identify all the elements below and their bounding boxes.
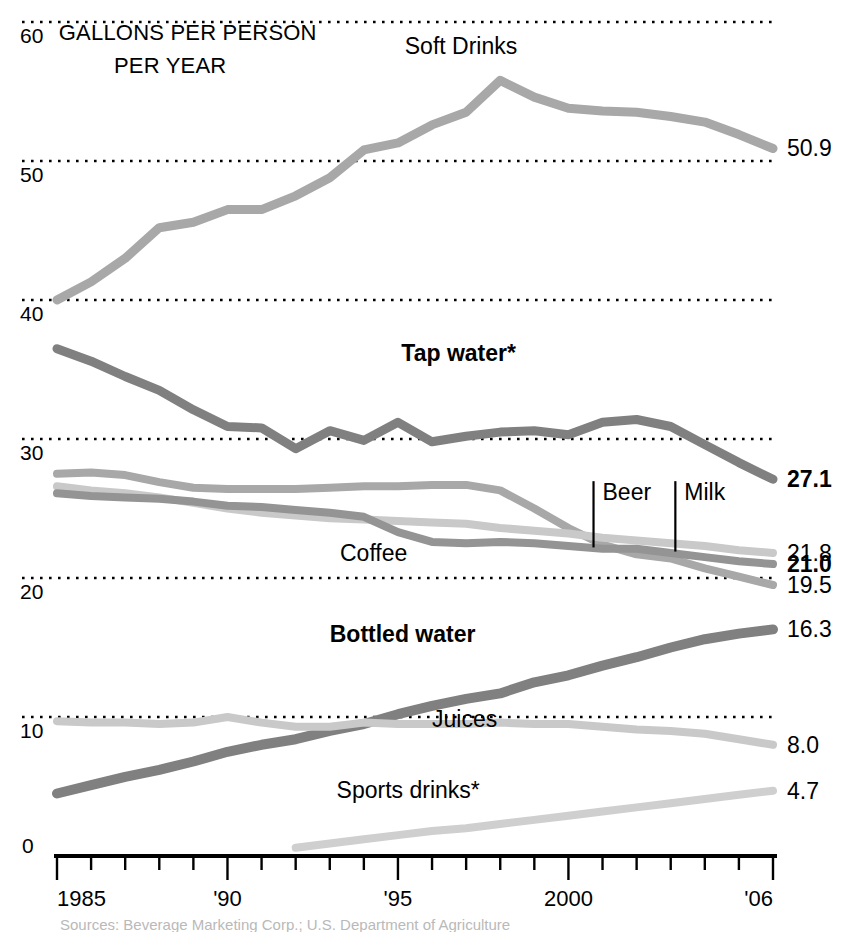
end-value-milk: 21.0 — [787, 551, 832, 577]
y-axis-label-10: 10 — [20, 719, 43, 742]
series-label-beer: Beer — [603, 479, 652, 505]
series-line-tap-water — [57, 349, 773, 480]
series-line-bottled-water — [57, 629, 773, 793]
y-axis-label-50: 50 — [20, 163, 43, 186]
chart-figure: 0102030405060 1985'90'952000'06 Soft Dri… — [0, 0, 842, 932]
y-axis-label-60: 60 — [20, 24, 43, 47]
y-axis-label-20: 20 — [20, 580, 43, 603]
series-line-soft-drinks — [57, 80, 773, 300]
series-label-bottled-water: Bottled water — [330, 621, 476, 647]
y-axis-label-40: 40 — [20, 302, 43, 325]
series-label-milk: Milk — [684, 479, 725, 505]
x-axis-label-1995: '95 — [384, 886, 413, 911]
y-axis-label-30: 30 — [20, 441, 43, 464]
x-axis-label-1985: 1985 — [57, 886, 106, 911]
x-axis-labels-group: 1985'90'952000'06 — [57, 886, 773, 911]
series-line-coffee — [57, 472, 773, 585]
chart-title-group: GALLONS PER PERSONPER YEAR — [59, 20, 317, 78]
series-label-soft-drinks: Soft Drinks — [405, 33, 517, 59]
series-label-coffee: Coffee — [340, 540, 407, 566]
x-axis-group — [54, 856, 777, 880]
series-line-milk — [57, 493, 773, 564]
end-value-soft-drinks: 50.9 — [787, 135, 832, 161]
x-axis-label-2006: '06 — [744, 886, 773, 911]
x-axis-label-2000: 2000 — [544, 886, 593, 911]
end-value-juices: 8.0 — [787, 732, 819, 758]
end-value-sports-drinks: 4.7 — [787, 778, 819, 804]
y-axis-label-0: 0 — [22, 834, 34, 857]
series-label-juices: Juices — [432, 706, 497, 732]
series-line-juices — [57, 717, 773, 745]
x-axis-label-1990: '90 — [213, 886, 242, 911]
end-value-labels-group: 50.927.119.521.821.016.38.04.7 — [787, 135, 832, 803]
series-label-sports-drinks: Sports drinks* — [337, 777, 480, 803]
end-value-tap-water: 27.1 — [787, 466, 832, 492]
chart-title-line-2: PER YEAR — [114, 53, 226, 78]
gridlines-group — [22, 22, 775, 717]
end-value-bottled-water: 16.3 — [787, 616, 832, 642]
chart-title-line-1: GALLONS PER PERSON — [59, 20, 317, 45]
chart-source-caption: Sources: Beverage Marketing Corp.; U.S. … — [60, 916, 760, 932]
series-lines-group — [57, 80, 773, 847]
series-label-tap-water: Tap water* — [401, 340, 516, 366]
beverage-consumption-line-chart: 0102030405060 1985'90'952000'06 Soft Dri… — [0, 0, 842, 932]
y-axis-labels-group: 0102030405060 — [20, 24, 43, 857]
